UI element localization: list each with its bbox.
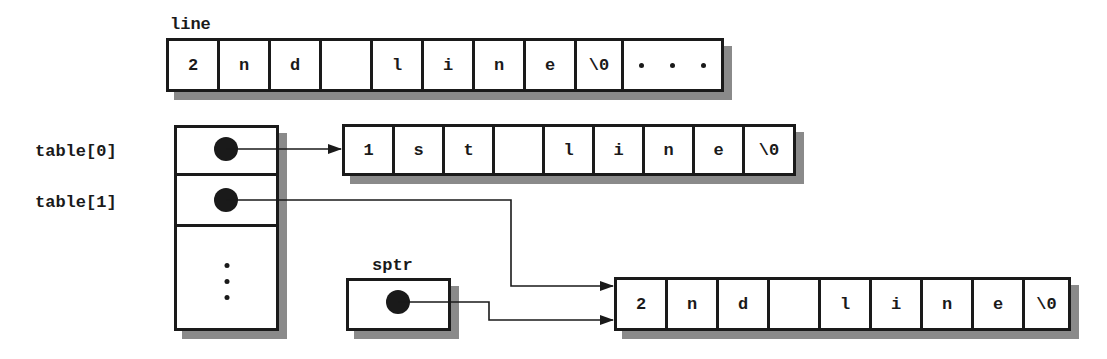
line-cell [322,41,373,89]
second-string-cell: d [719,280,770,328]
first-string-cell: s [395,127,445,173]
table-row-0 [177,128,276,176]
first-string-cell [495,127,545,173]
first-string-cell: i [595,127,645,173]
line-cell: n [220,41,271,89]
second-string-cell: i [872,280,923,328]
first-string-cell: 1 [345,127,395,173]
line-cell: d [271,41,322,89]
vertical-ellipsis-icon [224,263,229,300]
second-string-cell: \0 [1025,280,1068,328]
first-string-cell: t [445,127,495,173]
first-string-cell: e [695,127,745,173]
second-string-cell: e [974,280,1025,328]
line-cell: e [526,41,577,89]
first-string-cell: n [645,127,695,173]
first-string-cell: l [545,127,595,173]
sptr-box [346,278,451,331]
second-string-cell: n [923,280,974,328]
first-string-cell: \0 [745,127,793,173]
second-string-cell: 2 [617,280,668,328]
second-string-cell [770,280,821,328]
line-ellipsis-cell [624,41,721,89]
line-cell: n [475,41,526,89]
table-array [174,125,279,331]
table-row-1 [177,176,276,227]
line-cell: l [373,41,424,89]
table-0-label: table[0] [35,143,117,160]
second-string-cell: n [668,280,719,328]
line-cell: \0 [577,41,624,89]
pointer-arrow-icon [226,200,613,286]
sptr-label: sptr [372,257,413,274]
line-cell: i [424,41,475,89]
first-string-array: 1 s t l i n e \0 [342,124,796,176]
second-string-array: 2 n d l i n e \0 [614,277,1071,331]
line-cell: 2 [169,41,220,89]
table-row-ellipsis [177,227,276,328]
second-string-cell: l [821,280,872,328]
line-array: 2 n d l i n e \0 [166,38,724,92]
table-1-label: table[1] [35,194,117,211]
horizontal-ellipsis-icon [639,63,706,68]
line-label: line [170,16,211,33]
